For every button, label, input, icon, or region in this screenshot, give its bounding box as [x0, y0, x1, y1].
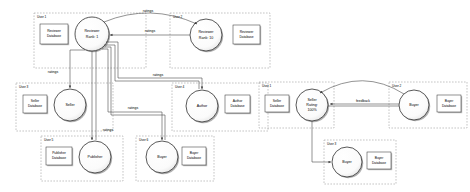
node-label-line1: Buyer: [342, 160, 352, 164]
database-label-line2: Database: [442, 104, 456, 108]
database-label-line1: Buyer: [445, 99, 455, 103]
database-label-line2: Database: [187, 156, 201, 160]
database-label-line2: Database: [28, 104, 42, 108]
group-label: User 3: [327, 142, 337, 146]
database-label-line2: Database: [47, 34, 61, 38]
group-label: User 1: [37, 15, 47, 19]
node-label-line1: Seller: [65, 103, 75, 107]
node-label-line1: Buyer: [409, 103, 419, 107]
edge-label-ratings-2: ratings: [145, 29, 156, 33]
node-label-line1: Reviewer: [85, 29, 101, 33]
group-label: User 2: [392, 84, 402, 88]
node-label-line3: 100%: [307, 108, 317, 112]
node-label-line2: Rank: 1: [86, 35, 98, 39]
diagram-canvas: User 1 Reviewer Database Reviewer Rank: …: [0, 0, 470, 192]
node-label-line2: Rating:: [306, 103, 317, 107]
edge-label-ratings-4: ratings: [153, 73, 164, 77]
database-label-line1: Seller: [273, 99, 282, 103]
edge-label-ratings-3: ratings: [48, 70, 59, 74]
database-label-line1: Seller: [31, 99, 40, 103]
database-label-line2: Database: [52, 156, 66, 160]
database-label-line1: Reviewer: [240, 30, 255, 34]
database-label-line2: Database: [239, 35, 253, 39]
diagram-svg: User 1 Reviewer Database Reviewer Rank: …: [0, 0, 470, 192]
node-label-line1: Author: [197, 104, 208, 108]
node-label-line1: Publisher: [88, 155, 104, 159]
group-label: User 3: [19, 85, 29, 89]
group-label: User 6: [139, 138, 149, 142]
edge-label-ratings-6: ratings: [128, 106, 139, 110]
node-label-line1: Buyer: [157, 155, 167, 159]
node-label-line1: Seller: [307, 98, 317, 102]
database-label-line1: Author: [233, 99, 244, 103]
database-label-line1: Publisher: [52, 151, 67, 155]
database-label-line2: Database: [372, 161, 386, 165]
edge-label-feedback: feedback: [356, 99, 370, 103]
database-label-line2: Database: [270, 104, 284, 108]
edge-label-ratings-1: ratings: [143, 9, 154, 13]
group-label: User 4: [175, 85, 185, 89]
database-label-line1: Buyer: [190, 151, 200, 155]
node-label-line1: Reviewer: [199, 30, 215, 34]
group-label: User 1: [262, 84, 272, 88]
database-label-line2: Database: [230, 104, 244, 108]
database-label-line1: Buyer: [375, 156, 385, 160]
database-label-line1: Reviewer: [47, 29, 62, 33]
group-label: User 5: [44, 138, 54, 142]
right-edge-labels: feedback: [356, 99, 370, 103]
node-label-line2: Rank: 10: [199, 36, 213, 40]
edge-label-ratings-5: ratings: [103, 128, 114, 132]
